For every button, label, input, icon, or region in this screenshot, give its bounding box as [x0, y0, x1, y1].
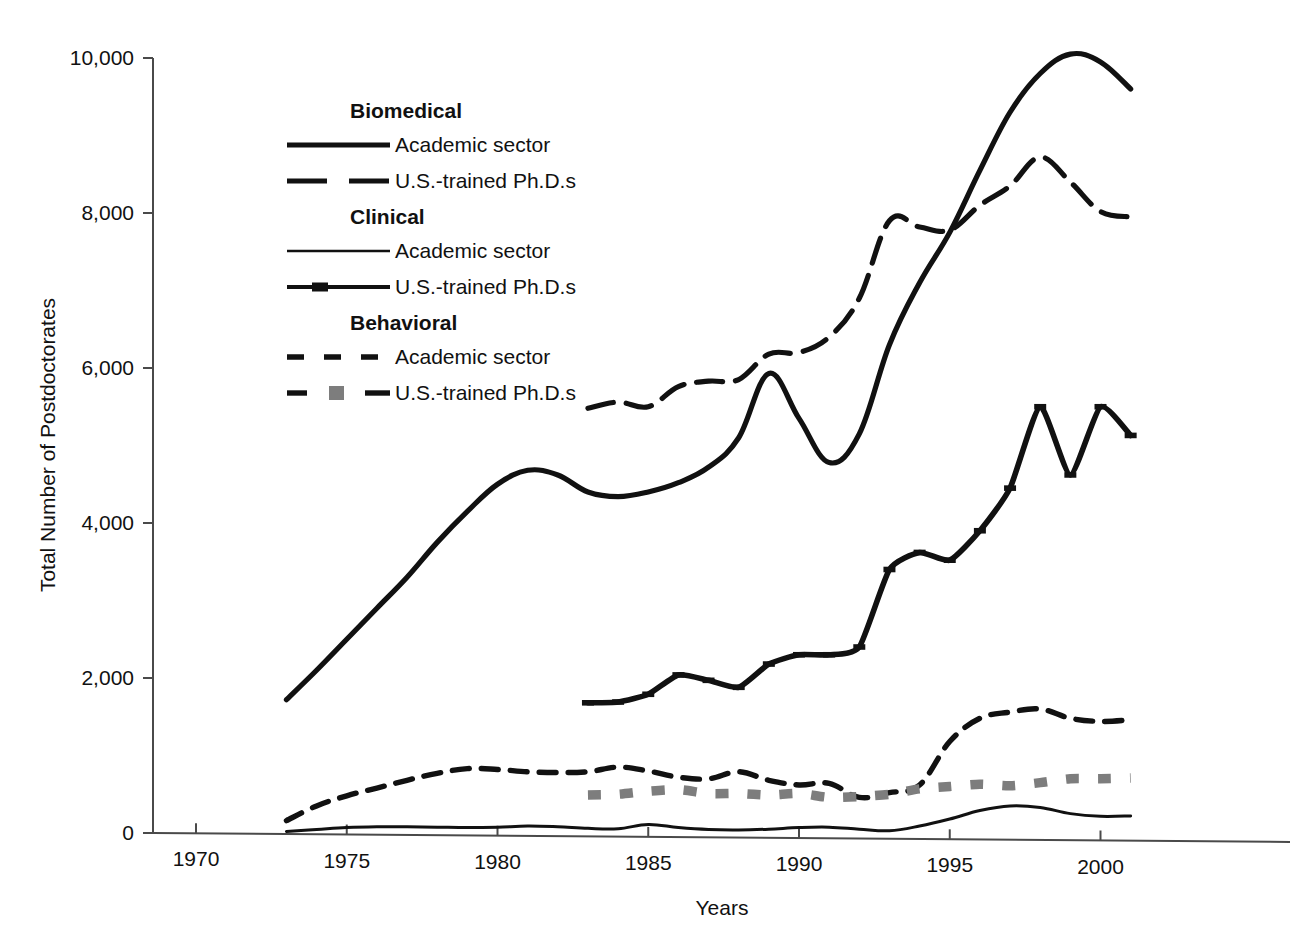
postdoctorates-line-chart: 02,0004,0006,0008,00010,000 197019751980…: [0, 0, 1315, 939]
y-tick-label: 6,000: [81, 356, 134, 379]
x-tick-label: 1970: [173, 847, 220, 870]
x-tick-label: 1990: [776, 852, 823, 875]
y-axis-tick-labels: 02,0004,0006,0008,00010,000: [70, 46, 134, 844]
x-axis-title: Years: [696, 896, 749, 919]
series-clinical-u-s-trained-ph-d-s: [582, 406, 1137, 702]
legend-swatch-dashed-gray-square: [287, 386, 390, 400]
legend-entry-label: Academic sector: [395, 133, 550, 156]
series-path: [588, 406, 1131, 702]
series-behavioral-academic-sector: [286, 709, 1130, 821]
series-behavioral-u-s-trained-ph-d-s: [588, 778, 1131, 797]
y-tick-label: 8,000: [81, 201, 134, 224]
series-biomedical-u-s-trained-ph-d-s: [588, 157, 1131, 408]
chart-legend: BiomedicalAcademic sectorU.S.-trained Ph…: [287, 99, 576, 404]
y-tick-label: 2,000: [81, 666, 134, 689]
legend-swatch-solid-marker: [287, 283, 390, 292]
x-tick-label: 1995: [926, 853, 973, 876]
axes-group: [143, 58, 1290, 842]
legend-entry-label: U.S.-trained Ph.D.s: [395, 381, 576, 404]
series-path: [286, 709, 1130, 821]
legend-group-heading: Biomedical: [350, 99, 462, 122]
series-path: [588, 778, 1131, 797]
x-axis-tick-labels: 1970197519801985199019952000: [173, 847, 1124, 877]
y-tick-label: 4,000: [81, 511, 134, 534]
series-path: [286, 806, 1130, 832]
x-tick-label: 1985: [625, 851, 672, 874]
legend-entry-label: U.S.-trained Ph.D.s: [395, 169, 576, 192]
x-axis-line: [153, 833, 1290, 842]
legend-entry-label: U.S.-trained Ph.D.s: [395, 275, 576, 298]
x-tick-label: 1980: [474, 850, 521, 873]
legend-group-heading: Clinical: [350, 205, 425, 228]
series-path: [588, 157, 1131, 408]
x-tick-label: 1975: [323, 849, 370, 872]
legend-group-heading: Behavioral: [350, 311, 457, 334]
y-axis-title: Total Number of Postdoctorates: [36, 298, 59, 592]
y-axis-ticks: [143, 58, 153, 833]
y-tick-label: 0: [122, 821, 134, 844]
chart-canvas: 02,0004,0006,0008,00010,000 197019751980…: [0, 0, 1315, 939]
legend-entry-label: Academic sector: [395, 345, 550, 368]
legend-entry-label: Academic sector: [395, 239, 550, 262]
y-tick-label: 10,000: [70, 46, 134, 69]
x-tick-label: 2000: [1077, 855, 1124, 878]
series-clinical-academic-sector: [286, 806, 1130, 832]
